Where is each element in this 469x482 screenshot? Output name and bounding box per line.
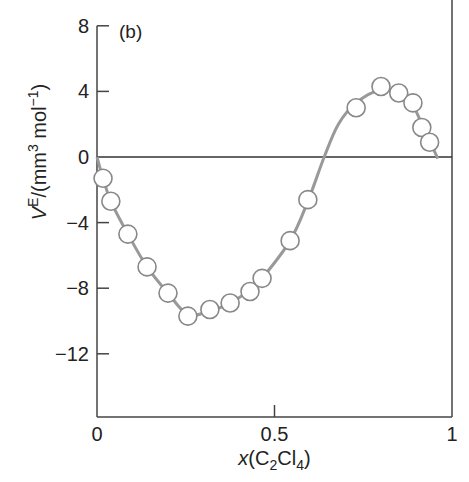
y-tick-label: 8 [78, 15, 89, 37]
data-point-circle [404, 94, 422, 112]
axis-labels: 840−4−8−1200.51(b)x(C2Cl4)VE/(mm3 mol−1) [25, 15, 458, 473]
panel-label: (b) [119, 21, 142, 42]
data-point-circle [138, 258, 156, 276]
chart: 840−4−8−1200.51(b)x(C2Cl4)VE/(mm3 mol−1) [0, 0, 469, 482]
x-tick-label: 0.5 [261, 423, 289, 445]
data-point-circle [253, 269, 271, 287]
axes [97, 0, 452, 417]
data-point-circle [94, 169, 112, 187]
data-point-circle [347, 99, 365, 117]
x-tick-label: 0 [91, 423, 102, 445]
data-point-circle [372, 77, 390, 95]
data-point-circle [201, 301, 219, 319]
data-point-circle [299, 191, 317, 209]
data-point-circle [102, 192, 120, 210]
data-point-circle [179, 307, 197, 325]
data-point-circle [159, 284, 177, 302]
y-axis-title: VE/(mm3 mol−1) [25, 84, 50, 220]
data-point-circle [119, 225, 137, 243]
data-markers [94, 77, 439, 325]
y-tick-label: 0 [78, 146, 89, 168]
data-point-circle [221, 294, 239, 312]
data-point-circle [281, 232, 299, 250]
data-point-circle [421, 133, 439, 151]
y-tick-label: −8 [66, 277, 89, 299]
y-tick-label: −12 [55, 343, 89, 365]
x-axis-title: x(C2Cl4) [237, 447, 310, 473]
y-tick-label: −4 [66, 212, 89, 234]
y-tick-label: 4 [78, 80, 89, 102]
x-tick-label: 1 [446, 423, 457, 445]
